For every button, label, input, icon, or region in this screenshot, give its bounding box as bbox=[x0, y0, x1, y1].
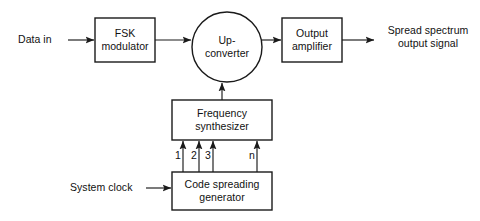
block-label-fsk-modulator: FSK modulator bbox=[95, 27, 155, 52]
block-label-frequency-synthesizer: Frequency synthesizer bbox=[172, 107, 272, 132]
tap-label-3: 3 bbox=[202, 150, 214, 161]
label-output-signal: Spread spectrum output signal bbox=[380, 24, 476, 49]
block-label-code-spreading-generator: Code spreading generator bbox=[172, 178, 272, 203]
block-diagram: FSK modulator Up- converter Output ampli… bbox=[0, 0, 480, 221]
label-data-in: Data in bbox=[18, 33, 68, 46]
tap-label-2: 2 bbox=[188, 150, 200, 161]
tap-label-n: n bbox=[246, 150, 258, 161]
tap-label-1: 1 bbox=[172, 150, 184, 161]
block-label-up-converter: Up- converter bbox=[192, 34, 262, 59]
block-label-output-amplifier: Output amplifier bbox=[282, 27, 342, 52]
label-system-clock: System clock bbox=[70, 181, 142, 194]
